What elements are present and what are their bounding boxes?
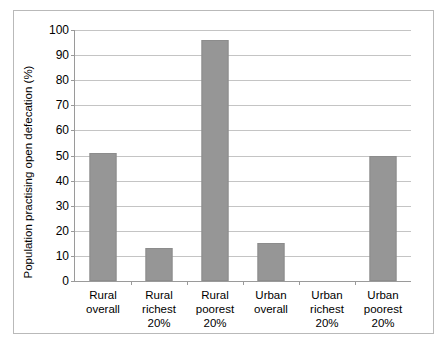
y-axis-title-text: Population practising open defecation (%… xyxy=(22,66,34,279)
bar[interactable] xyxy=(258,243,285,281)
x-tick-label-line: richest xyxy=(131,302,187,316)
x-tick-label-line: poorest xyxy=(187,302,243,316)
y-tick-label-100: 100 xyxy=(49,23,69,37)
x-tick-mark xyxy=(243,281,244,285)
x-tick-label-line: overall xyxy=(75,302,131,316)
y-tick-label-70: 70 xyxy=(56,98,69,112)
x-tick-label-line: Urban xyxy=(299,288,355,302)
y-tick-label-30: 30 xyxy=(56,199,69,213)
x-tick-label: Ruraloverall xyxy=(75,288,131,330)
x-tick-label-line: Urban xyxy=(355,288,411,302)
bar-slot xyxy=(299,30,355,281)
y-tick-label-10: 10 xyxy=(56,249,69,263)
x-tick-label-line: poorest xyxy=(355,302,411,316)
x-tick-mark xyxy=(187,281,188,285)
x-tick-label: Ruralpoorest20% xyxy=(187,288,243,330)
y-tick-label-90: 90 xyxy=(56,48,69,62)
y-tick-label-20: 20 xyxy=(56,224,69,238)
x-tick-label-line: Rural xyxy=(187,288,243,302)
y-axis-title: Population practising open defecation (%… xyxy=(19,11,37,333)
bar-slot xyxy=(187,30,243,281)
x-tick-label-line: overall xyxy=(243,302,299,316)
x-tick-label-line: 20% xyxy=(187,316,243,330)
bar-slot xyxy=(131,30,187,281)
x-tick-label: Urbanpoorest20% xyxy=(355,288,411,330)
plot-area: 0102030405060708090100 xyxy=(75,30,411,281)
x-tick-mark xyxy=(131,281,132,285)
x-tick-label-line: Urban xyxy=(243,288,299,302)
x-tick-label: Urbanoverall xyxy=(243,288,299,330)
x-tick-label-line: Rural xyxy=(131,288,187,302)
y-tick-label-60: 60 xyxy=(56,123,69,137)
x-tick-label: Urbanrichest20% xyxy=(299,288,355,330)
bar[interactable] xyxy=(370,156,397,282)
bar[interactable] xyxy=(202,40,229,281)
x-tick-label-line: richest xyxy=(299,302,355,316)
y-tick-label-40: 40 xyxy=(56,174,69,188)
x-tick-mark xyxy=(299,281,300,285)
chart-figure: Population practising open defecation (%… xyxy=(13,10,434,334)
x-tick-label-line: 20% xyxy=(299,316,355,330)
bar[interactable] xyxy=(146,248,173,281)
x-tick-label: Ruralrichest20% xyxy=(131,288,187,330)
x-tick-label-line: 20% xyxy=(355,316,411,330)
y-tick-label-0: 0 xyxy=(62,274,69,288)
bar-slot xyxy=(355,30,411,281)
y-tick-label-80: 80 xyxy=(56,73,69,87)
x-axis-tick-labels: RuraloverallRuralrichest20%Ruralpoorest2… xyxy=(75,288,411,330)
bar-slot xyxy=(75,30,131,281)
bar[interactable] xyxy=(90,153,117,281)
x-tick-label-line: 20% xyxy=(131,316,187,330)
y-tick-label-50: 50 xyxy=(56,149,69,163)
x-tick-mark xyxy=(355,281,356,285)
y-tick-mark-0 xyxy=(71,281,75,282)
bar-slot xyxy=(243,30,299,281)
bar-series xyxy=(75,30,411,281)
x-tick-label-line: Rural xyxy=(75,288,131,302)
page-top-text-sliver xyxy=(0,0,447,7)
